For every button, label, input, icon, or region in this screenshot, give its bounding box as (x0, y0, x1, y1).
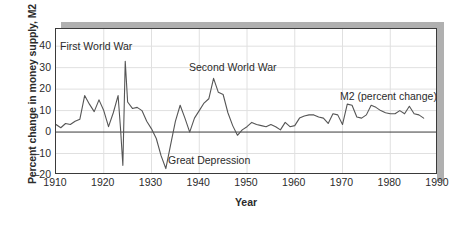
x-tick-1940: 1940 (178, 177, 218, 188)
x-tick-1960: 1960 (274, 177, 314, 188)
annotation-second-world-war: Second World War (189, 62, 277, 73)
x-tick-1950: 1950 (226, 177, 266, 188)
x-tick-1930: 1930 (131, 177, 171, 188)
chart-figure: Percent change in money supply, M2 40302… (0, 0, 455, 232)
annotation-great-depression: Great Depression (168, 155, 250, 166)
annotation-first-world-war: First World War (60, 41, 132, 52)
x-tick-1990: 1990 (417, 177, 455, 188)
x-tick-1980: 1980 (369, 177, 409, 188)
x-tick-1970: 1970 (322, 177, 362, 188)
annotation-m2-series-label: M2 (percent change) (340, 91, 437, 102)
x-axis-title: Year (55, 196, 437, 208)
x-tick-1920: 1920 (83, 177, 123, 188)
x-tick-1910: 1910 (35, 177, 75, 188)
